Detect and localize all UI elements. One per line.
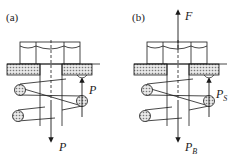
bolt-spring-diagram: (a) xyxy=(0,0,237,165)
bolt-force-label: P xyxy=(58,140,67,154)
coil-spring xyxy=(140,79,215,122)
panel-a: (a) xyxy=(6,11,100,154)
spring-force-label: P xyxy=(88,83,97,97)
bolt-force-arrow: P xyxy=(51,100,67,154)
coil-spring xyxy=(13,79,88,122)
spring-force-label: PS xyxy=(215,87,227,103)
bolt-force-label: PB xyxy=(184,140,197,156)
panel-a-label: (a) xyxy=(6,11,19,24)
external-force-label: F xyxy=(184,9,193,23)
hex-nut xyxy=(20,42,80,64)
hex-nut xyxy=(147,42,207,64)
plate xyxy=(7,64,100,75)
bolt-force-arrow: PB xyxy=(178,100,197,156)
panel-b-label: (b) xyxy=(132,11,145,24)
plate xyxy=(134,64,227,75)
panel-b: (b) xyxy=(132,9,227,156)
